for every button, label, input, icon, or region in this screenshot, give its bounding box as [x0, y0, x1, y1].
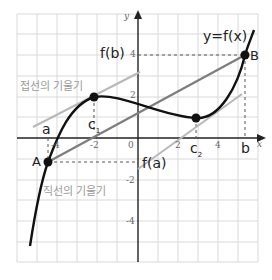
point-A [44, 158, 53, 167]
point-B [241, 51, 250, 60]
tangent-slope-annotation: 접선의 기울기 [20, 81, 84, 92]
axes [17, 14, 262, 262]
x-tick: -4 [51, 141, 60, 150]
y-tick: 2 [130, 91, 136, 100]
label-B: B [250, 49, 259, 62]
curve-label: y=f(x) [203, 29, 247, 43]
label-b: b [241, 141, 250, 155]
point-c2 [192, 114, 201, 123]
label-a: a [42, 122, 51, 136]
y-tick: -4 [126, 217, 135, 226]
label-A: A [32, 155, 41, 168]
y-tick: -2 [126, 176, 135, 185]
x-tick: 2 [175, 141, 181, 150]
x-axis-label: x [257, 140, 262, 149]
y-axis-label: y [124, 12, 129, 21]
x-tick: 0 [128, 141, 134, 150]
secant-slope-annotation: 직선의 기울기 [43, 186, 107, 197]
y-tick: 4 [130, 50, 136, 59]
point-c1 [90, 93, 99, 102]
label-c2: c2 [190, 141, 202, 159]
label-fb: f(b) [100, 46, 125, 60]
label-fa: f(a) [142, 156, 166, 170]
label-c1: c1 [88, 117, 100, 135]
x-tick: -2 [90, 141, 99, 150]
x-tick: 4 [215, 141, 221, 150]
